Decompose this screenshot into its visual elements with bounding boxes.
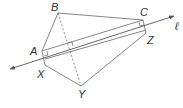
label-Z: Z: [146, 34, 155, 46]
segment-BA: [42, 13, 58, 51]
segment-BC: [58, 13, 143, 20]
segment-YZ: [81, 33, 146, 86]
label-X: X: [36, 68, 45, 80]
right-angle-marker-mid: [68, 42, 73, 46]
right-angle-marker-A: [44, 51, 48, 56]
geometry-diagram: B C A Z X Y ℓ: [0, 0, 183, 108]
label-Y: Y: [78, 88, 86, 100]
label-line-l: ℓ: [174, 20, 179, 32]
label-C: C: [140, 6, 148, 18]
label-A: A: [29, 45, 37, 57]
label-B: B: [51, 1, 58, 13]
